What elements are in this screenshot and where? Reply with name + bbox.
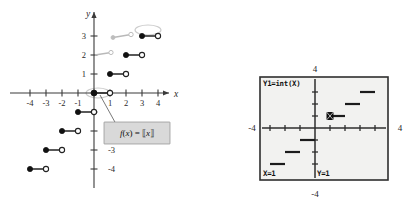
closed-endpoint	[139, 33, 144, 38]
calc-y-readout: Y=1	[317, 169, 330, 178]
step-segment	[91, 90, 113, 96]
window-xmax-label: 4	[398, 123, 403, 133]
y-tick-label: 3	[82, 31, 86, 41]
open-endpoint	[139, 52, 144, 57]
step-segment	[75, 109, 96, 114]
closed-endpoint	[75, 109, 80, 114]
calc-equation-label: Y1=int(X)	[263, 79, 300, 88]
x-tick-label: 2	[124, 98, 128, 108]
step-function-svg: -4 -3 -2 -1 1 2 3 4 3 2 1 -2 -3 -4 x y	[0, 0, 230, 203]
open-endpoint	[43, 166, 48, 171]
step-function-graph: -4 -3 -2 -1 1 2 3 4 3 2 1 -2 -3 -4 x y	[0, 0, 230, 203]
axes-group	[10, 12, 169, 188]
y-tick-label: 1	[82, 69, 86, 79]
y-axis-label: y	[85, 9, 91, 19]
y-tick-label: -3	[108, 145, 115, 155]
window-ymax-label: 4	[313, 64, 318, 74]
closed-endpoint	[107, 71, 112, 76]
calc-x-readout: X=1	[263, 169, 276, 178]
function-label: f(x) = ⟦x⟧	[120, 128, 154, 138]
closed-endpoint	[59, 128, 64, 133]
step-segment	[107, 71, 128, 76]
window-ymin-label: -4	[311, 189, 319, 199]
x-tick-label: 1	[108, 98, 112, 108]
figure-pair-container: -4 -3 -2 -1 1 2 3 4 3 2 1 -2 -3 -4 x y	[0, 0, 412, 203]
closed-endpoint	[43, 147, 48, 152]
y-axis-arrow	[91, 12, 96, 18]
trace-cursor[interactable]	[327, 112, 334, 120]
calculator-svg: 4 -4 -4 4	[232, 58, 412, 203]
step-segment	[123, 52, 144, 57]
step-segment	[59, 128, 80, 133]
open-endpoint	[107, 90, 112, 95]
step-segment	[27, 166, 48, 171]
window-xmin-label: -4	[248, 123, 256, 133]
x-tick-label: -4	[26, 98, 34, 108]
open-endpoint	[155, 33, 160, 38]
x-axis-arrow	[163, 90, 169, 95]
open-endpoint	[59, 147, 64, 152]
x-tick-label: 3	[140, 98, 144, 108]
step-segment	[43, 147, 64, 152]
x-axis-label: x	[173, 89, 179, 99]
x-tick-label: 4	[156, 98, 161, 108]
x-tick-label: -1	[74, 98, 81, 108]
open-endpoint	[91, 109, 96, 114]
step-segment	[139, 33, 160, 38]
graphing-calculator-figure: 4 -4 -4 4	[232, 58, 412, 203]
closed-endpoint	[91, 90, 97, 96]
closed-endpoint	[27, 166, 32, 171]
closed-endpoint	[123, 52, 128, 57]
x-tick-label: -2	[58, 98, 65, 108]
open-endpoint	[75, 128, 80, 133]
ghost-step-segments	[95, 32, 133, 55]
y-tick-label: -4	[108, 164, 116, 174]
y-tick-label: 2	[82, 50, 86, 60]
open-endpoint	[123, 71, 128, 76]
x-tick-label: -3	[42, 98, 49, 108]
